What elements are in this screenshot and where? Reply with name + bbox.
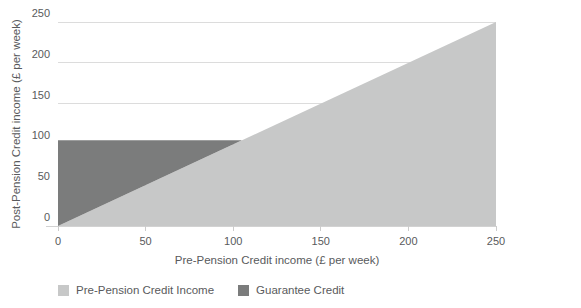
x-tick-label: 100 xyxy=(224,235,242,247)
x-tick-label: 150 xyxy=(312,235,330,247)
x-tick-label: 250 xyxy=(487,235,505,247)
legend-item-pre-pension-credit-income: Pre-Pension Credit Income xyxy=(58,284,214,296)
x-axis-title: Pre-Pension Credit income (£ per week) xyxy=(58,254,496,266)
y-tick-label: 0 xyxy=(44,211,50,223)
legend-item-guarantee-credit: Guarantee Credit xyxy=(238,284,344,296)
legend-label-guarantee-credit: Guarantee Credit xyxy=(256,284,344,296)
y-axis-title: Post-Pension Credit income (£ per week) xyxy=(10,19,22,229)
guarantee-credit-swatch-icon xyxy=(238,285,249,296)
x-tick-label: 200 xyxy=(399,235,417,247)
y-tick-label: 50 xyxy=(38,170,50,182)
y-tick-label: 100 xyxy=(32,129,50,141)
legend: Pre-Pension Credit Income Guarantee Cred… xyxy=(58,284,344,296)
pre-pension-credit-income-swatch-icon xyxy=(58,285,69,296)
y-tick-label: 200 xyxy=(32,48,50,60)
y-tick-label: 250 xyxy=(32,7,50,19)
pension-credit-chart: 050100150200250050100150200250 Post-Pens… xyxy=(0,0,581,308)
x-tick-label: 0 xyxy=(55,235,61,247)
x-tick-label: 50 xyxy=(139,235,151,247)
y-tick-label: 150 xyxy=(32,89,50,101)
legend-label-pre-pension-credit-income: Pre-Pension Credit Income xyxy=(76,284,214,296)
